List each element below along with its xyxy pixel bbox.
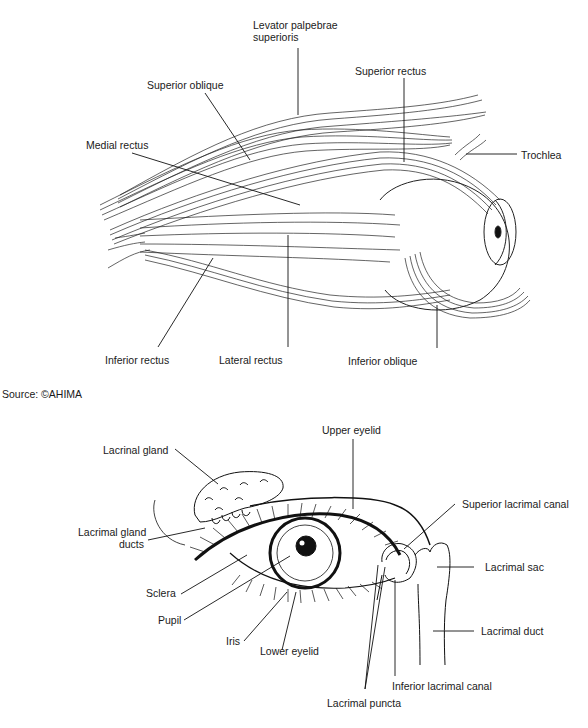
superior-rectus-muscle (110, 152, 500, 244)
label-sclera: Sclera (146, 587, 176, 599)
label-line: ducts (78, 538, 144, 550)
label-inferior-lacrimal-canal: Inferior lacrimal canal (392, 680, 492, 692)
label-pupil: Pupil (158, 614, 181, 626)
label-lateral-rectus: Lateral rectus (219, 354, 283, 366)
inferior-rectus-muscle (145, 250, 450, 309)
label-lacrinal-gland: Lacrinal gland (103, 444, 168, 456)
label-inferior-oblique: Inferior oblique (348, 355, 417, 367)
label-lacrimal-duct: Lacrimal duct (481, 625, 543, 637)
label-iris: Iris (226, 635, 240, 647)
label-inferior-rectus: Inferior rectus (105, 354, 169, 366)
label-line: Lacrimal gland (78, 526, 144, 538)
label-lacrimal-puncta: Lacrimal puncta (327, 697, 401, 709)
label-line: superioris (253, 31, 338, 43)
extraocular-muscles-diagram (0, 0, 588, 728)
label-superior-rectus: Superior rectus (355, 65, 426, 77)
label-levator-palpebrae-superioris: Levator palpebrae superioris (253, 19, 338, 43)
label-upper-eyelid: Upper eyelid (322, 424, 381, 436)
superior-oblique-muscle (100, 129, 452, 220)
label-medial-rectus: Medial rectus (86, 139, 148, 151)
label-superior-oblique: Superior oblique (147, 79, 223, 91)
inferior-oblique-muscle (405, 252, 530, 318)
label-trochlea: Trochlea (521, 149, 561, 161)
lateral-rectus-muscle (140, 213, 400, 262)
label-lacrimal-gland-ducts: Lacrimal gland ducts (78, 526, 144, 550)
label-superior-lacrimal-canal: Superior lacrimal canal (462, 498, 569, 510)
label-line: Levator palpebrae (253, 19, 338, 31)
source-credit: Source: ©AHIMA (2, 388, 82, 400)
label-lower-eyelid: Lower eyelid (260, 645, 319, 657)
label-lacrimal-sac: Lacrimal sac (485, 561, 544, 573)
